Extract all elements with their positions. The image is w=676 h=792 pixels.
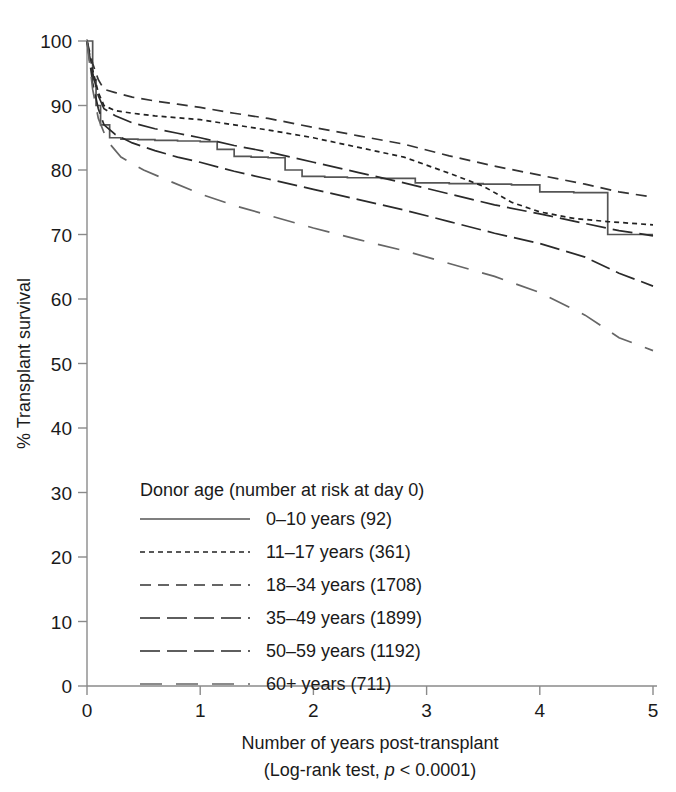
legend-label-5: 60+ years (711) xyxy=(266,674,391,694)
kaplan-meier-chart: 0102030405060708090100 012345 Donor age … xyxy=(0,0,676,792)
x-tick-label: 1 xyxy=(195,700,206,721)
y-tick-label: 40 xyxy=(51,418,72,439)
survival-chart-figure: 0102030405060708090100 012345 Donor age … xyxy=(0,0,676,792)
legend-label-2: 18–34 years (1708) xyxy=(266,575,422,595)
y-tick-label: 30 xyxy=(51,483,72,504)
y-tick-label: 60 xyxy=(51,289,72,310)
y-tick-label: 20 xyxy=(51,547,72,568)
legend-title: Donor age (number at risk at day 0) xyxy=(140,480,424,500)
x-axis-title: Number of years post-transplant xyxy=(241,733,498,753)
legend-label-1: 11–17 years (361) xyxy=(266,542,411,562)
y-axis-title: % Transplant survival xyxy=(14,278,34,449)
y-tick-label: 90 xyxy=(51,96,72,117)
x-tick-label: 4 xyxy=(535,700,546,721)
x-axis-subtitle: (Log-rank test, p < 0.0001) xyxy=(264,760,477,780)
x-tick-label: 0 xyxy=(82,700,93,721)
x-tick-label: 3 xyxy=(421,700,432,721)
y-tick-label: 100 xyxy=(40,31,72,52)
y-tick-label: 50 xyxy=(51,354,72,375)
legend-label-4: 50–59 years (1192) xyxy=(266,641,421,661)
y-tick-label: 10 xyxy=(51,612,72,633)
legend-label-0: 0–10 years (92) xyxy=(266,509,392,529)
x-tick-label: 5 xyxy=(648,700,659,721)
y-tick-label: 70 xyxy=(51,225,72,246)
y-tick-label: 80 xyxy=(51,160,72,181)
x-tick-label: 2 xyxy=(308,700,319,721)
legend-label-3: 35–49 years (1899) xyxy=(266,608,422,628)
y-tick-label: 0 xyxy=(61,676,72,697)
